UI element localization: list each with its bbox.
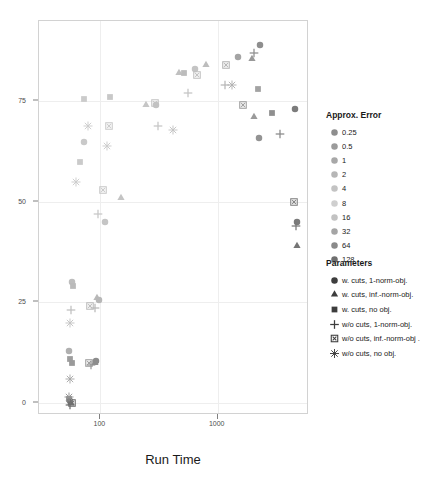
data-point-boxed-x bbox=[150, 99, 159, 108]
gridline-horizontal bbox=[39, 101, 307, 102]
legend-label: 0.5 bbox=[342, 142, 352, 151]
data-point-circle bbox=[64, 346, 73, 355]
x-axis: 1001000 bbox=[38, 414, 308, 438]
legend-row-parameters[interactable]: w. cuts, inf.-norm-obj. bbox=[326, 288, 420, 303]
y-tick-mark bbox=[33, 200, 38, 201]
data-point-circle bbox=[190, 65, 199, 74]
data-point-triangle bbox=[202, 61, 211, 70]
data-point-asterisk bbox=[83, 121, 92, 130]
data-point-square bbox=[68, 282, 77, 291]
x-tick-label: 1000 bbox=[209, 420, 225, 427]
legend-label: 8 bbox=[342, 199, 346, 208]
data-point-plus bbox=[90, 304, 99, 313]
legend-swatch-circle-icon bbox=[326, 128, 342, 137]
data-point-triangle bbox=[90, 358, 99, 367]
legend-row-approx-error[interactable]: 1 bbox=[326, 153, 381, 167]
legend-swatch-circle-icon bbox=[326, 276, 342, 285]
legend-row-parameters[interactable]: w. cuts, 1-norm-obj. bbox=[326, 273, 420, 288]
legend-swatch-circle-icon bbox=[326, 213, 342, 222]
legend-row-approx-error[interactable]: 4 bbox=[326, 182, 381, 196]
legend-label: w/o cuts, inf.-norm-obj . bbox=[342, 334, 420, 343]
data-point-square bbox=[267, 109, 276, 118]
legend-swatch-circle-icon bbox=[326, 156, 342, 165]
data-point-circle bbox=[67, 278, 76, 287]
data-point-square bbox=[75, 157, 84, 166]
data-point-boxed-x bbox=[192, 71, 201, 80]
gridline-horizontal bbox=[39, 202, 307, 203]
legend-label: w. cuts, no obj. bbox=[342, 305, 392, 314]
legend-swatch-plus-icon bbox=[326, 320, 342, 329]
data-point-asterisk bbox=[71, 177, 80, 186]
legend-label: 64 bbox=[342, 241, 350, 250]
data-point-circle bbox=[95, 296, 104, 305]
data-point-circle bbox=[101, 218, 110, 227]
data-point-circle bbox=[292, 218, 301, 227]
legend-label: w/o cuts, 1-norm-obj. bbox=[342, 320, 412, 329]
data-point-plus bbox=[154, 121, 163, 130]
legend-row-approx-error[interactable]: 0.5 bbox=[326, 139, 381, 153]
legend-swatch-circle-icon bbox=[326, 184, 342, 193]
data-point-triangle bbox=[250, 113, 259, 122]
data-point-plus bbox=[276, 129, 285, 138]
data-point-plus bbox=[66, 306, 75, 315]
legend-swatch-circle-icon bbox=[326, 241, 342, 250]
y-tick-mark bbox=[33, 301, 38, 302]
x-axis-title: Run Time bbox=[38, 452, 308, 467]
gridline-vertical bbox=[100, 21, 101, 413]
data-point-asterisk bbox=[169, 125, 178, 134]
legend-row-parameters[interactable]: w. cuts, no obj. bbox=[326, 302, 420, 317]
x-tick-mark bbox=[99, 414, 100, 419]
y-tick-label: 50 bbox=[0, 197, 26, 204]
y-tick-label: 75 bbox=[0, 97, 26, 104]
data-point-circle bbox=[234, 53, 243, 62]
data-point-triangle bbox=[175, 69, 184, 78]
data-point-plus bbox=[184, 89, 193, 98]
legend-row-approx-error[interactable]: 64 bbox=[326, 239, 381, 253]
data-point-boxed-x bbox=[84, 358, 93, 367]
legend-label: 0.25 bbox=[342, 128, 357, 137]
y-tick-mark bbox=[33, 401, 38, 402]
data-point-plus bbox=[87, 360, 96, 369]
data-point-square bbox=[65, 354, 74, 363]
y-tick-label: 25 bbox=[0, 298, 26, 305]
data-point-boxed-x bbox=[104, 121, 113, 130]
data-point-circle bbox=[92, 356, 101, 365]
data-point-square bbox=[67, 358, 76, 367]
x-tick-label: 100 bbox=[94, 420, 106, 427]
legend-approx-error: Approx. Error 0.250.51248163264128 bbox=[326, 110, 381, 267]
legend-swatch-circle-icon bbox=[326, 142, 342, 151]
legend-parameters: Parameters w. cuts, 1-norm-obj.w. cuts, … bbox=[326, 258, 420, 361]
data-point-triangle bbox=[247, 55, 256, 64]
data-point-circle bbox=[255, 133, 264, 142]
legend-label: 2 bbox=[342, 170, 346, 179]
legend-swatch-square-icon bbox=[326, 305, 342, 314]
gridline-horizontal bbox=[39, 302, 307, 303]
legend-row-approx-error[interactable]: 8 bbox=[326, 196, 381, 210]
data-point-asterisk bbox=[65, 374, 74, 383]
data-point-circle bbox=[65, 396, 74, 405]
data-point-plus bbox=[220, 81, 229, 90]
data-point-circle bbox=[80, 137, 89, 146]
y-tick-label: 0 bbox=[0, 398, 26, 405]
legend-parameters-title: Parameters bbox=[326, 258, 420, 268]
legend-label: 1 bbox=[342, 156, 346, 165]
data-point-asterisk bbox=[103, 141, 112, 150]
legend-swatch-circle-icon bbox=[326, 227, 342, 236]
data-point-asterisk bbox=[65, 318, 74, 327]
legend-row-approx-error[interactable]: 2 bbox=[326, 168, 381, 182]
gridline-vertical bbox=[218, 21, 219, 413]
data-point-plus bbox=[250, 49, 259, 58]
legend-label: 32 bbox=[342, 227, 350, 236]
plot-area bbox=[38, 20, 308, 414]
legend-row-parameters[interactable]: w/o cuts, inf.-norm-obj . bbox=[326, 331, 420, 346]
legend-row-parameters[interactable]: w/o cuts, 1-norm-obj. bbox=[326, 317, 420, 332]
data-point-circle bbox=[256, 41, 265, 50]
legend-label: 16 bbox=[342, 213, 350, 222]
legend-row-approx-error[interactable]: 0.25 bbox=[326, 125, 381, 139]
legend-approx-error-title: Approx. Error bbox=[326, 110, 381, 120]
legend-row-parameters[interactable]: w/o cuts, no obj. bbox=[326, 346, 420, 361]
legend-row-approx-error[interactable]: 16 bbox=[326, 210, 381, 224]
data-point-square bbox=[79, 95, 88, 104]
legend-row-approx-error[interactable]: 32 bbox=[326, 224, 381, 238]
data-point-plus bbox=[65, 400, 74, 409]
